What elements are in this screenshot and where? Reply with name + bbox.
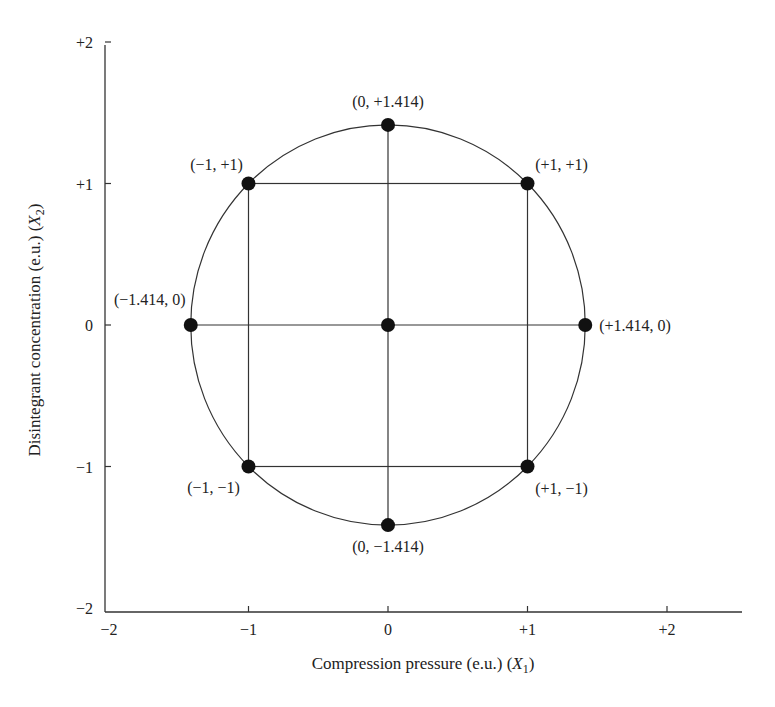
x-axis-title: Compression pressure (e.u.) (X1) <box>312 654 535 676</box>
point-label: (+1, −1) <box>535 480 588 498</box>
x-tick-label: 0 <box>384 621 392 638</box>
point-label: (+1.414, 0) <box>599 317 671 335</box>
point-label: (0, +1.414) <box>352 93 424 111</box>
point-label: (−1, −1) <box>187 479 240 497</box>
y-tick-label: 0 <box>85 317 93 334</box>
x-tick-label: +2 <box>658 621 675 638</box>
y-tick-label: +1 <box>76 176 93 193</box>
design-point <box>381 118 395 132</box>
point-label: (0, −1.414) <box>352 538 424 556</box>
design-point <box>381 318 395 332</box>
x-tick-label: −2 <box>100 621 117 638</box>
point-label: (−1, +1) <box>190 156 243 174</box>
y-axis-title: Disintegrant concentration (e.u.) (X2) <box>25 204 47 457</box>
design-point <box>381 518 395 532</box>
central-composite-design-diagram: +2+10−1−2−2−10+1+2 (0, +1.414)(−1, +1)(+… <box>0 0 775 707</box>
point-label: (−1.414, 0) <box>114 291 186 309</box>
design-point <box>578 318 592 332</box>
design-point <box>184 318 198 332</box>
design-point <box>521 177 535 191</box>
point-label: (+1, +1) <box>535 156 588 174</box>
x-tick-label: +1 <box>519 621 536 638</box>
y-tick-label: +2 <box>76 34 93 51</box>
design-point <box>521 460 535 474</box>
design-point <box>242 460 256 474</box>
x-tick-label: −1 <box>240 621 257 638</box>
design-point <box>242 177 256 191</box>
y-tick-label: −1 <box>76 459 93 476</box>
y-tick-label: −2 <box>76 600 93 617</box>
